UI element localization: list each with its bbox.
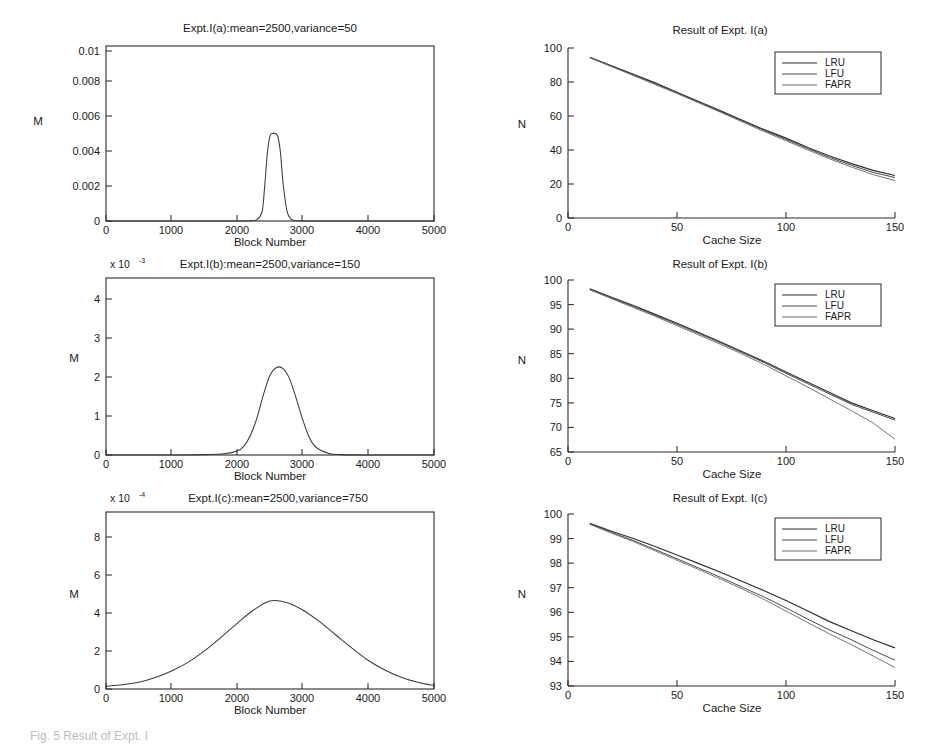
svg-text:98: 98 [550,557,562,569]
svg-text:3000: 3000 [290,458,314,470]
svg-text:95: 95 [550,631,562,643]
chart-expt-1a-distribution: Expt.I(a):mean=2500,variance=50 0 0.002 … [0,18,470,250]
x-axis-label: Cache Size [703,468,762,480]
svg-text:0: 0 [103,224,109,236]
svg-text:4000: 4000 [356,458,380,470]
svg-text:2: 2 [94,371,100,383]
svg-text:1000: 1000 [159,224,183,236]
svg-text:75: 75 [550,397,562,409]
legend-label-lru: LRU [825,57,845,68]
y-tick-marks [568,514,574,686]
svg-text:80: 80 [550,372,562,384]
legend-label-fapr: FAPR [825,311,851,322]
panel-expt-1b-distribution: x 10 -3 Expt.I(b):mean=2500,variance=150… [0,252,470,484]
y-axis-label: M [69,588,79,600]
svg-text:85: 85 [550,348,562,360]
legend-label-lfu: LFU [825,300,844,311]
svg-text:1: 1 [94,410,100,422]
x-tick-labels: 0 50 100 150 [565,455,904,467]
svg-text:100: 100 [777,455,795,467]
chart-title: Result of Expt. I(a) [672,24,767,36]
chart-title: Result of Expt. I(c) [673,492,768,504]
y-tick-labels: 0 1 2 3 4 [94,293,100,461]
svg-text:80: 80 [550,76,562,88]
svg-text:0.002: 0.002 [72,180,100,192]
svg-text:96: 96 [550,606,562,618]
svg-text:0: 0 [103,692,109,704]
svg-text:95: 95 [550,299,562,311]
y-axis-exponent-prefix: x 10 [110,258,130,270]
y-axis-label: N [518,118,526,130]
legend-label-fapr: FAPR [825,79,851,90]
y-tick-labels: 0 0.002 0.004 0.006 0.008 0.01 [72,45,100,227]
panel-expt-1c-result: Result of Expt. I(c) 93 94 95 96 97 98 [470,486,949,718]
y-axis-exponent-power: -3 [139,257,145,264]
svg-text:50: 50 [671,221,683,233]
chart-expt-1c-result: Result of Expt. I(c) 93 94 95 96 97 98 [470,486,949,718]
svg-text:3: 3 [94,332,100,344]
svg-text:100: 100 [544,274,562,286]
y-tick-marks [106,537,112,689]
plot-frame [106,512,434,689]
panel-expt-1b-result: Result of Expt. I(b) 65 70 75 80 85 90 [470,252,949,484]
distribution-curve [106,133,434,221]
svg-text:97: 97 [550,582,562,594]
svg-text:40: 40 [550,144,562,156]
svg-text:20: 20 [550,178,562,190]
legend: LRU LFU FAPR [775,52,881,94]
chart-expt-1b-distribution: x 10 -3 Expt.I(b):mean=2500,variance=150… [0,252,470,484]
chart-title: Result of Expt. I(b) [672,258,767,270]
x-axis-label: Cache Size [703,234,762,246]
x-tick-marks [568,680,895,686]
svg-text:150: 150 [886,689,904,701]
panel-expt-1a-distribution: Expt.I(a):mean=2500,variance=50 0 0.002 … [0,18,470,250]
svg-text:0.01: 0.01 [79,45,100,57]
panel-expt-1a-result: Result of Expt. I(a) 0 20 40 60 80 100 N [470,18,949,250]
distribution-curve [106,367,434,455]
legend: LRU LFU FAPR [775,518,881,560]
svg-text:65: 65 [550,446,562,458]
svg-text:4000: 4000 [356,692,380,704]
svg-text:4000: 4000 [356,224,380,236]
svg-text:93: 93 [550,680,562,692]
x-axis-label: Cache Size [703,702,762,714]
legend-label-lru: LRU [825,289,845,300]
legend-label-lfu: LFU [825,534,844,545]
y-tick-marks [568,280,574,452]
chart-expt-1a-result: Result of Expt. I(a) 0 20 40 60 80 100 N [470,18,949,250]
y-axis-label: M [33,115,43,127]
y-tick-labels: 93 94 95 96 97 98 99 100 [544,508,562,692]
svg-text:5000: 5000 [422,458,446,470]
svg-text:2000: 2000 [225,692,249,704]
x-tick-marks [568,212,895,218]
y-tick-marks [106,299,112,455]
svg-text:3000: 3000 [290,224,314,236]
y-axis-label: N [518,588,526,600]
x-tick-labels: 0 1000 2000 3000 4000 5000 [103,458,446,470]
chart-title: Expt.I(c):mean=2500,variance=750 [188,492,368,504]
svg-text:99: 99 [550,533,562,545]
svg-text:100: 100 [544,508,562,520]
svg-text:0: 0 [565,455,571,467]
chart-title: Expt.I(b):mean=2500,variance=150 [180,258,360,270]
svg-text:2: 2 [94,645,100,657]
x-axis-label: Block Number [234,236,306,248]
legend: LRU LFU FAPR [775,284,881,326]
y-tick-marks [106,51,112,221]
svg-text:100: 100 [777,221,795,233]
svg-text:0: 0 [94,683,100,695]
legend-label-fapr: FAPR [825,545,851,556]
panel-expt-1c-distribution: x 10 -4 Expt.I(c):mean=2500,variance=750… [0,486,470,718]
figure-container: Expt.I(a):mean=2500,variance=50 0 0.002 … [0,0,949,745]
x-axis-label: Block Number [234,704,306,716]
svg-text:0.006: 0.006 [72,110,100,122]
svg-text:150: 150 [886,455,904,467]
svg-text:90: 90 [550,323,562,335]
plot-frame [106,46,434,221]
figure-caption: Fig. 5 Result of Expt. I [30,728,910,745]
x-tick-marks [106,683,434,689]
y-axis-exponent-prefix: x 10 [110,492,130,504]
svg-text:100: 100 [544,42,562,54]
svg-text:0: 0 [94,449,100,461]
y-axis-exponent-power: -4 [139,491,145,498]
